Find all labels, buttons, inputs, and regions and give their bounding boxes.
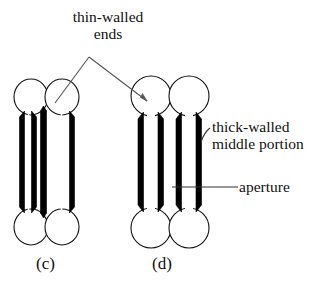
leader-thin-walled-right xyxy=(89,57,147,101)
panel-d-graphic xyxy=(131,76,209,248)
figure-container: thin-walled ends thick-walled middle por… xyxy=(0,0,331,295)
leader-thick-walled xyxy=(201,128,210,142)
caption-panel-c: (c) xyxy=(36,254,55,273)
label-thin-walled-ends: thin-walled ends xyxy=(48,8,168,43)
panel-d-bottom-right-end-circle xyxy=(169,208,209,248)
label-thick-walled-line2: middle portion xyxy=(212,135,331,152)
label-thin-walled-line1: thin-walled xyxy=(48,8,168,25)
panel-c-wall-left xyxy=(20,111,25,213)
panel-d-wall-right-outer xyxy=(196,112,202,212)
label-thick-walled-middle-portion: thick-walled middle portion xyxy=(212,118,331,153)
label-thin-walled-line2: ends xyxy=(48,25,168,42)
panel-c-wall-inner-left xyxy=(32,111,37,213)
panel-d-top-right-end-circle xyxy=(169,76,209,116)
label-thick-walled-line1: thick-walled xyxy=(212,118,331,135)
panel-d-wall-right-inner xyxy=(176,112,182,212)
panel-d-top-left-end-circle xyxy=(131,76,171,116)
panel-d-bottom-left-end-circle xyxy=(131,208,171,248)
panel-d-wall-left-inner xyxy=(158,112,164,212)
panel-d-wall-left-outer xyxy=(138,112,144,212)
panel-c-wall-right xyxy=(70,111,75,213)
label-aperture: aperture xyxy=(239,178,290,195)
caption-panel-d: (d) xyxy=(152,254,172,273)
panel-c-top-right-end-circle xyxy=(45,79,79,115)
panel-c-bottom-right-end-circle xyxy=(45,209,79,245)
panel-c-wall-middle-shared xyxy=(41,111,47,213)
panel-c-graphic xyxy=(14,79,79,245)
